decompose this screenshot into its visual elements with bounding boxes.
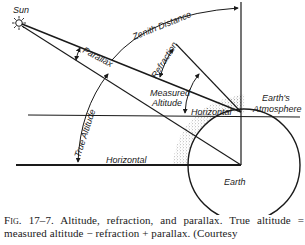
observer-horizontal-label: Horizontal bbox=[191, 107, 233, 117]
earths-atmosphere-label-line2: Atmosphere bbox=[252, 104, 302, 114]
measured-altitude-label-line2: Altitude bbox=[151, 98, 182, 108]
figure-number: Fig. 17–7. bbox=[4, 214, 54, 226]
sun-icon bbox=[12, 16, 26, 30]
zenith-distance-label: Zenith Distance bbox=[130, 9, 193, 42]
center-horizontal-label: Horizontal bbox=[106, 155, 148, 165]
measured-altitude-label-line1: Measured bbox=[150, 88, 191, 98]
refraction-label: Refraction bbox=[149, 40, 179, 80]
earths-atmosphere-label-line1: Earth's bbox=[262, 93, 290, 103]
atmosphere-band bbox=[173, 94, 264, 165]
sun-center-line bbox=[22, 26, 241, 165]
figure-caption: Fig. 17–7. Altitude, refraction, and par… bbox=[4, 214, 304, 240]
earth-circle bbox=[188, 109, 300, 215]
sun-observer-line bbox=[22, 24, 241, 112]
refraction-line bbox=[176, 44, 241, 112]
parallax-label: Parallax bbox=[81, 45, 115, 69]
earth-label: Earth bbox=[224, 177, 246, 187]
parallax-arc bbox=[76, 48, 80, 60]
altitude-refraction-parallax-diagram: Sun Zenith Distance Refraction Parallax … bbox=[0, 0, 305, 215]
sun-label: Sun bbox=[13, 5, 29, 15]
